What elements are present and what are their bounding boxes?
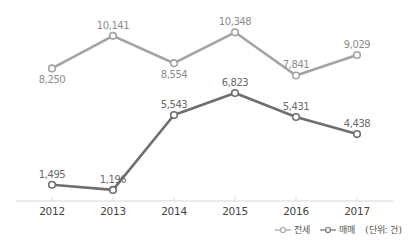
data-point [293,72,300,79]
data-label: 5,431 [283,101,310,112]
data-label: 5,543 [161,99,188,110]
line-chart: 201220132014201520162017 8,25010,1418,55… [0,0,410,246]
data-label: 1,495 [39,169,66,180]
legend: 전세 매매 (단위: 건) [275,223,402,236]
x-tick-label: 2016 [283,205,309,217]
data-point [171,60,178,67]
series-group: 8,25010,1418,55410,3487,8419,0291,4951,1… [39,16,371,193]
line-marker-icon [275,226,291,234]
series-line [52,32,357,75]
data-point [110,33,117,40]
unit-label: (단위: 건) [365,223,402,236]
data-point [49,181,56,188]
data-point [232,29,239,36]
data-point [49,65,56,72]
data-point [293,114,300,121]
data-point [171,112,178,119]
legend-item-jeonse: 전세 [275,223,310,236]
data-label: 8,250 [39,74,66,85]
data-label: 4,438 [344,118,371,129]
legend-label: 매매 [339,223,355,236]
data-label: 10,141 [97,20,130,31]
line-marker-icon [320,226,336,234]
x-tick-label: 2014 [161,205,187,217]
legend-label: 전세 [294,223,310,236]
x-tick-label: 2013 [100,205,126,217]
series-line [52,93,357,190]
data-label: 1,196 [100,174,127,185]
data-label: 10,348 [219,16,252,27]
x-axis-ticks: 201220132014201520162017 [39,197,370,217]
data-point [110,187,117,194]
data-label: 7,841 [283,59,310,70]
data-label: 6,823 [222,77,249,88]
data-label: 8,554 [161,69,188,80]
data-point [354,52,361,59]
x-tick-label: 2015 [222,205,248,217]
data-point [232,90,239,97]
data-point [354,131,361,138]
legend-item-maemae: 매매 [320,223,355,236]
x-tick-label: 2012 [39,205,65,217]
data-label: 9,029 [344,39,371,50]
x-tick-label: 2017 [344,205,370,217]
